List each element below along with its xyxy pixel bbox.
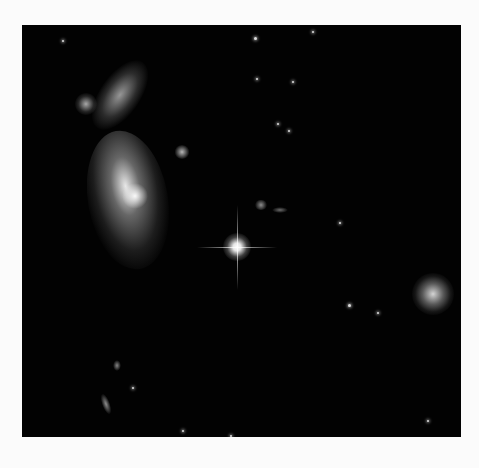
- star: [230, 435, 232, 437]
- faint-galaxy: [272, 207, 288, 213]
- faint-caption: [140, 442, 460, 462]
- star: [62, 40, 64, 42]
- star: [339, 222, 341, 224]
- star: [256, 78, 258, 80]
- star: [292, 81, 294, 83]
- star: [312, 31, 314, 33]
- galaxy-image: [22, 25, 461, 437]
- star: [348, 304, 351, 307]
- galaxy-knot: [174, 145, 190, 159]
- star: [427, 420, 429, 422]
- star-spike: [237, 205, 238, 290]
- star: [254, 37, 257, 40]
- star: [288, 130, 290, 132]
- star: [277, 123, 279, 125]
- spiral-galaxy: [412, 273, 454, 315]
- star: [182, 430, 184, 432]
- edge-on-galaxy: [98, 392, 113, 415]
- main-galaxy-core: [122, 183, 148, 209]
- faint-galaxy: [113, 360, 121, 371]
- small-galaxy: [75, 93, 97, 115]
- star: [132, 387, 134, 389]
- faint-galaxy: [254, 200, 268, 210]
- star: [377, 312, 379, 314]
